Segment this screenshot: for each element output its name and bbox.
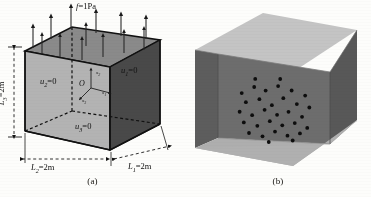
collocation-point [263,108,267,112]
collocation-point [305,126,309,130]
panel-a-caption: (a) [0,176,185,186]
collocation-point [253,77,257,81]
collocation-point [290,89,294,93]
collocation-point [286,134,290,138]
collocation-point [252,85,256,89]
extension-line-right [161,126,168,150]
collocation-point [242,120,246,124]
panel-a-drawing [0,0,185,197]
panel-b-caption: (b) [185,176,371,186]
collocation-point [293,121,297,125]
left-face-bc-label: u2=0 [40,77,56,88]
depth-dimension-label: L2=2m [31,163,54,174]
collocation-point [247,131,251,135]
collocation-point [295,102,299,106]
collocation-point [268,119,272,123]
panel-b-drawing [185,0,371,197]
collocation-point [307,106,311,110]
collocation-point [280,123,284,127]
collocation-point [298,132,302,136]
panel-a: f=1Pa u2=0 u1=0 u3=0 L3=2m L2=2m L1=2m O… [0,0,185,197]
height-dimension-label: L3=2m [0,82,8,105]
dimension-width [114,146,170,159]
bottom-face-bc-label: u3=0 [75,122,91,133]
panel-b [185,0,371,197]
collocation-point [275,113,279,117]
collocation-point [244,100,248,104]
box-right-wall [330,30,357,144]
collocation-point [273,130,277,134]
collocation-point [240,91,244,95]
collocation-point [270,103,274,107]
collocation-point [255,124,259,128]
collocation-point [287,110,291,114]
collocation-point [300,115,304,119]
width-dimension-label: L1=2m [128,162,151,173]
box-left-wall [195,50,218,148]
axis-label-x1: x1 [102,90,106,97]
axis-label-x3: x3 [82,98,86,105]
origin-label: O [79,80,85,88]
collocation-point [278,77,282,81]
dimension-height [8,47,22,137]
collocation-point [291,139,295,143]
collocation-point [261,134,265,138]
figure-container: f=1Pa u2=0 u1=0 u3=0 L3=2m L2=2m L1=2m O… [0,0,371,197]
collocation-point [267,140,271,144]
axis-label-x2: x2 [96,70,100,77]
collocation-point [281,96,285,100]
collocation-point [303,94,307,98]
collocation-point [258,97,262,101]
collocation-point [250,113,254,117]
collocation-point [264,89,268,93]
right-face-bc-label: u1=0 [121,66,137,77]
collocation-point [238,110,242,114]
collocation-point [276,84,280,88]
load-label: f=1Pa [76,2,96,11]
